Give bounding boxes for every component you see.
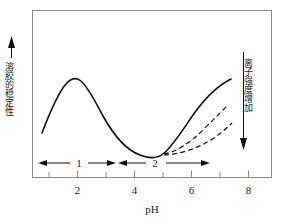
region-2-right-arrowhead [201,160,210,166]
region-1-annotation: 1 [38,157,116,169]
region-2-label: 2 [152,157,158,169]
x-axis-title: pH [145,203,159,215]
x-tick-label-8: 8 [246,184,252,196]
x-tick-label-6: 6 [189,184,195,196]
x-tick-label-2: 2 [75,184,81,196]
stability-axis-arrow [8,36,15,58]
stability-vs-ph-chart: 2 4 6 8 pH 1 2 [0,0,289,224]
stability-arrowhead [8,36,15,48]
curve-ionic-strength-b [164,123,232,155]
curve-ionic-strength-a [164,105,228,154]
ionic-strength-label: 离子强度增加 [243,58,252,112]
region-1-label: 1 [76,157,82,169]
plot-frame [33,11,272,178]
y-axis-title: 溶胶的稳定性 [4,62,13,116]
region-1-left-arrowhead [38,160,47,166]
region-2-left-arrowhead [118,160,127,166]
region-2-annotation: 2 [118,157,210,169]
ionic-strength-arrowhead [240,138,247,150]
x-axis-ticks [49,171,249,178]
curve-sol-stability [42,79,231,158]
x-tick-label-4: 4 [132,184,138,196]
region-1-right-arrowhead [107,160,116,166]
figure-container: 2 4 6 8 pH 1 2 [0,0,289,224]
